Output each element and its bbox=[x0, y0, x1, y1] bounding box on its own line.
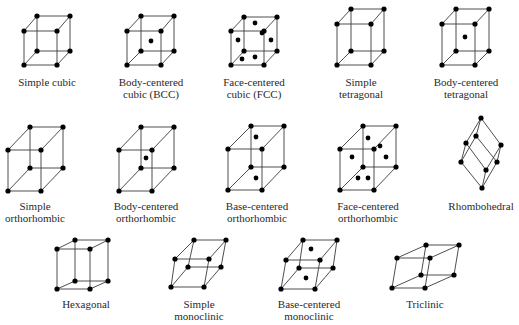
corner-atom bbox=[228, 28, 233, 33]
lattice-edge bbox=[90, 281, 108, 289]
lattice-edge bbox=[397, 245, 426, 258]
centered-atom bbox=[253, 55, 258, 60]
lattice-edge bbox=[228, 126, 251, 149]
lattice-edge bbox=[127, 51, 141, 65]
corner-atom bbox=[360, 164, 365, 169]
corner-atom bbox=[138, 124, 143, 129]
label-line: monoclinic bbox=[174, 310, 224, 322]
lattice-simple-orthorhombic bbox=[5, 124, 65, 193]
corner-atom bbox=[278, 286, 283, 291]
corner-atom bbox=[138, 48, 143, 53]
lattice-label-base-centered-monoclinic: Base-centeredmonoclinic bbox=[278, 298, 340, 322]
centered-atom bbox=[366, 176, 371, 181]
centered-atom bbox=[254, 176, 259, 181]
lattice-label-body-centered-orthorhombic: Body-centeredorthorhombic bbox=[114, 200, 179, 224]
corner-atom bbox=[60, 165, 65, 170]
corner-atom bbox=[171, 124, 176, 129]
lattice-edge bbox=[228, 167, 251, 190]
label-line: tetragonal bbox=[434, 88, 499, 100]
lattice-edge bbox=[461, 162, 482, 188]
corner-atom bbox=[274, 14, 279, 19]
corner-atom bbox=[241, 14, 246, 19]
corner-atom bbox=[149, 147, 154, 152]
lattice-edge bbox=[264, 51, 277, 65]
lattice-label-base-centered-orthorhombic: Base-centeredorthorhombic bbox=[226, 200, 288, 224]
lattice-edge bbox=[127, 16, 141, 31]
corner-atom bbox=[360, 123, 365, 128]
centered-atom bbox=[378, 144, 383, 149]
lattice-edge bbox=[264, 17, 277, 31]
corner-atom bbox=[296, 265, 301, 270]
corner-atom bbox=[371, 146, 376, 151]
lattice-edge bbox=[476, 118, 481, 136]
lattice-base-centered-monoclinic bbox=[278, 237, 339, 291]
corner-atom bbox=[67, 48, 72, 53]
lattice-edge bbox=[175, 240, 194, 259]
lattice-simple-monoclinic bbox=[168, 237, 228, 289]
lattice-edge bbox=[8, 168, 30, 191]
lattice-edge bbox=[371, 9, 384, 24]
label-line: tetragonal bbox=[339, 88, 383, 100]
corner-atom bbox=[334, 21, 339, 26]
corner-atom bbox=[281, 123, 286, 128]
corner-atom bbox=[453, 6, 458, 11]
corner-atom bbox=[439, 62, 444, 67]
lattice-edge bbox=[221, 240, 226, 267]
corner-atom bbox=[54, 62, 59, 67]
label-line: monoclinic bbox=[278, 310, 340, 322]
corner-atom bbox=[54, 286, 59, 291]
corner-atom bbox=[138, 165, 143, 170]
corner-atom bbox=[124, 28, 129, 33]
corner-atom bbox=[337, 187, 342, 192]
corner-atom bbox=[381, 6, 386, 11]
lattice-edge bbox=[161, 16, 174, 31]
corner-atom bbox=[334, 62, 339, 67]
corner-atom bbox=[206, 256, 211, 261]
lattice-edge bbox=[374, 126, 396, 149]
label-line: orthorhombic bbox=[337, 212, 399, 224]
corner-atom bbox=[463, 140, 468, 145]
corner-atom bbox=[5, 147, 10, 152]
corner-atom bbox=[105, 237, 110, 242]
lattice-simple-cubic bbox=[21, 13, 72, 67]
corner-atom bbox=[393, 123, 398, 128]
centered-atom bbox=[260, 31, 265, 36]
corner-atom bbox=[337, 146, 342, 151]
lattice-edge bbox=[430, 245, 459, 258]
corner-atom bbox=[381, 48, 386, 53]
centered-atom bbox=[236, 38, 241, 43]
centered-atom bbox=[356, 176, 361, 181]
corner-atom bbox=[34, 48, 39, 53]
lattice-edge bbox=[481, 118, 501, 145]
corner-atom bbox=[368, 62, 373, 67]
lattice-edge bbox=[454, 245, 459, 275]
lattice-edge bbox=[152, 168, 174, 191]
corner-atom bbox=[368, 21, 373, 26]
lattice-label-simple-cubic: Simple cubic bbox=[18, 76, 76, 88]
label-line: orthorhombic bbox=[114, 212, 179, 224]
centered-atom bbox=[144, 156, 149, 161]
corner-atom bbox=[472, 21, 477, 26]
lattice-label-simple-tetragonal: Simpletetragonal bbox=[339, 76, 383, 100]
corner-atom bbox=[201, 284, 206, 289]
lattice-label-triclinic: Triclinic bbox=[406, 298, 444, 310]
corner-atom bbox=[483, 167, 488, 172]
lattice-edge bbox=[466, 143, 486, 170]
lattice-edge bbox=[204, 267, 221, 287]
label-line: Base-centered bbox=[278, 298, 340, 310]
corner-atom bbox=[486, 48, 491, 53]
lattice-rhombohedral bbox=[458, 115, 503, 190]
lattice-triclinic bbox=[389, 242, 461, 290]
corner-atom bbox=[54, 28, 59, 33]
lattice-edge bbox=[119, 127, 141, 150]
corner-atom bbox=[259, 187, 264, 192]
lattice-bcc bbox=[124, 13, 176, 67]
label-line: orthorhombic bbox=[5, 212, 65, 224]
label-line: Face-centered bbox=[337, 200, 399, 212]
corner-atom bbox=[472, 62, 477, 67]
label-line: Rhombohedral bbox=[448, 200, 513, 212]
lattice-edge bbox=[475, 9, 489, 24]
centered-atom bbox=[366, 136, 371, 141]
label-line: Body-centered bbox=[434, 76, 499, 88]
lattice-edge bbox=[476, 136, 497, 162]
